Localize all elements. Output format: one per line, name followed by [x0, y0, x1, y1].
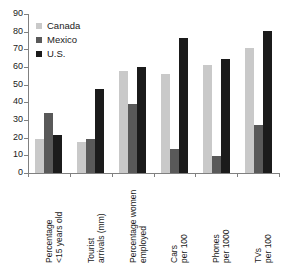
y-axis-tick-label: 90 — [13, 8, 23, 19]
y-axis-tick-label: 10 — [13, 149, 23, 160]
bar-canada — [161, 74, 170, 173]
bar-mexico — [170, 149, 179, 173]
bar-u-s — [53, 135, 62, 173]
x-axis-category-label-line: Percentage — [45, 220, 55, 263]
chart-legend: CanadaMexicoU.S. — [36, 19, 80, 61]
x-axis-tick-mark — [112, 173, 113, 177]
x-axis-category-label-line: per 100 — [180, 234, 190, 263]
bar-group — [161, 14, 188, 173]
bar-u-s — [95, 89, 104, 173]
y-axis-tick-label: 20 — [13, 132, 23, 143]
legend-item-canada: Canada — [36, 19, 80, 32]
x-axis-category-label-line: <15 years old — [55, 212, 65, 263]
x-axis-tick-mark — [195, 173, 196, 177]
bar-u-s — [221, 59, 230, 173]
x-axis-tick-mark — [154, 173, 155, 177]
bar-mexico — [212, 156, 221, 173]
legend-item-u-s: U.S. — [36, 47, 80, 60]
bar-u-s — [263, 31, 272, 173]
bar-canada — [35, 139, 44, 173]
bar-group — [203, 14, 230, 173]
y-axis-tick-label: 70 — [13, 43, 23, 54]
x-axis-category-labels: Percentage<15 years oldTouristarrivals (… — [28, 179, 279, 267]
bar-canada — [77, 142, 86, 173]
y-axis-tick-label: 60 — [13, 61, 23, 72]
x-axis-tick-mark — [237, 173, 238, 177]
bar-group — [77, 14, 104, 173]
x-axis-tick-mark — [28, 173, 29, 177]
x-axis-tick-mark — [70, 173, 71, 177]
bar-canada — [119, 71, 128, 173]
bar-mexico — [128, 104, 137, 173]
x-axis-category-label-line: arrivals (mm) — [97, 213, 107, 263]
x-axis-category-label-line: Percentage women — [129, 190, 139, 263]
y-axis-tick-label: 40 — [13, 96, 23, 107]
bar-canada — [203, 65, 212, 173]
x-axis-category-label-line: per 1000 — [222, 229, 232, 263]
bar-u-s — [137, 67, 146, 173]
bar-chart: 0102030405060708090 CanadaMexicoU.S. Per… — [0, 0, 283, 267]
bar-u-s — [179, 38, 188, 173]
x-axis-category-label-line: employed — [139, 226, 149, 263]
legend-label: Mexico — [47, 35, 77, 45]
y-axis-tick-label: 80 — [13, 26, 23, 37]
y-axis-tick-label: 30 — [13, 114, 23, 125]
bar-canada — [245, 48, 254, 173]
bar-mexico — [44, 113, 53, 173]
legend-label: Canada — [47, 21, 80, 31]
bar-mexico — [86, 139, 95, 173]
y-axis-tick-label: 50 — [13, 79, 23, 90]
bar-group — [119, 14, 146, 173]
y-axis-tick-label: 0 — [18, 167, 23, 178]
bar-group — [245, 14, 272, 173]
bar-mexico — [254, 125, 263, 173]
x-axis-tick-mark — [279, 173, 280, 177]
legend-label: U.S. — [47, 49, 65, 59]
x-axis-category-label-line: per 100 — [264, 234, 274, 263]
legend-swatch-icon — [36, 51, 42, 57]
x-axis-category-label-line: Tourist — [87, 238, 97, 263]
legend-item-mexico: Mexico — [36, 33, 80, 46]
legend-swatch-icon — [36, 23, 42, 29]
legend-swatch-icon — [36, 37, 42, 43]
